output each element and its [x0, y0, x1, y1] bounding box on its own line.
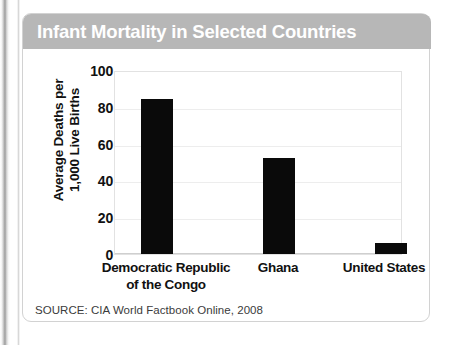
y-axis-title-line-1: Average Deaths per: [51, 79, 67, 202]
category-label-drc-line-1: Democratic Republic: [92, 259, 240, 276]
category-label-united-states: United States: [329, 259, 439, 276]
y-tick-label: 80: [98, 100, 113, 116]
x-axis-category-labels: Democratic Republic of the Congo Ghana U…: [114, 259, 402, 299]
bar-democratic-republic-of-the-congo: [141, 99, 173, 254]
category-label-drc: Democratic Republic of the Congo: [92, 259, 240, 293]
chart-card: Infant Mortality in Selected Countries A…: [22, 13, 430, 322]
chart-title: Infant Mortality in Selected Countries: [23, 21, 356, 43]
category-label-ghana-line-1: Ghana: [242, 259, 314, 276]
y-tick-label: 20: [98, 210, 113, 226]
y-tick-label: 60: [98, 137, 113, 153]
chart-source-note: SOURCE: CIA World Factbook Online, 2008: [35, 304, 263, 316]
page-edge-artifact: [17, 0, 20, 345]
category-label-ghana: Ghana: [242, 259, 314, 276]
page-spine-artifact: [0, 0, 10, 345]
y-tick-label: 100: [90, 63, 113, 79]
y-tick-label: 40: [98, 173, 113, 189]
y-axis-title: Average Deaths per 1,000 Live Births: [50, 60, 84, 220]
category-label-united-states-line-1: United States: [329, 259, 439, 276]
category-label-drc-line-2: of the Congo: [92, 276, 240, 293]
chart-plot-region: Average Deaths per 1,000 Live Births 100…: [23, 49, 431, 301]
plot-area: [114, 71, 402, 255]
chart-title-band: Infant Mortality in Selected Countries: [23, 14, 431, 49]
bar-united-states: [375, 243, 407, 254]
bar-ghana: [263, 158, 295, 254]
y-axis-tick-labels: 100 80 60 40 20 0: [81, 71, 113, 255]
